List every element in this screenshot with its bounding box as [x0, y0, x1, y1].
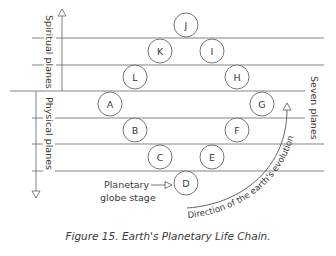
globe-label: L — [132, 72, 138, 83]
globe-h: H — [225, 65, 249, 89]
planetary-life-chain-diagram: Spiritual planes Physical planes Seven p… — [0, 0, 336, 256]
globe-l: L — [123, 65, 147, 89]
globe-label: C — [157, 152, 164, 163]
physical-axis-arrow — [32, 91, 40, 198]
arrow-up-icon — [58, 9, 66, 16]
globe-g: G — [250, 92, 274, 116]
globe-circles: JKILHAGBFCED — [98, 13, 274, 195]
globe-e: E — [200, 145, 224, 169]
planetary-pointer-arrow — [151, 182, 172, 189]
globe-label: F — [234, 125, 239, 136]
spiritual-planes-label: Spiritual planes — [44, 15, 55, 89]
globe-d: D — [174, 171, 198, 195]
arrow-down-icon — [32, 191, 40, 198]
globe-f: F — [225, 118, 249, 142]
seven-planes-label: Seven planes — [309, 76, 320, 140]
physical-planes-label: Physical planes — [44, 97, 55, 170]
globe-j: J — [174, 13, 198, 37]
planetary-label-line1: Planetary — [104, 179, 150, 190]
globe-label: K — [157, 46, 164, 57]
spiritual-axis-arrow — [58, 9, 66, 91]
figure-caption: Figure 15. Earth's Planetary Life Chain. — [0, 230, 336, 242]
globe-label: B — [132, 125, 139, 136]
arrow-up-icon — [283, 103, 291, 110]
globe-c: C — [148, 145, 172, 169]
globe-label: I — [211, 46, 214, 57]
planetary-label-line2: globe stage — [100, 192, 156, 203]
globe-k: K — [148, 39, 172, 63]
globe-label: H — [233, 72, 240, 83]
globe-label: G — [258, 99, 265, 110]
arrow-right-icon — [165, 182, 172, 189]
globe-a: A — [98, 92, 122, 116]
globe-label: A — [107, 99, 114, 110]
globe-b: B — [123, 118, 147, 142]
globe-label: D — [182, 178, 189, 189]
evolution-label: Direction of the earth's evolution — [187, 134, 296, 220]
globe-label: E — [209, 152, 215, 163]
globe-i: I — [200, 39, 224, 63]
globe-label: J — [184, 20, 188, 31]
